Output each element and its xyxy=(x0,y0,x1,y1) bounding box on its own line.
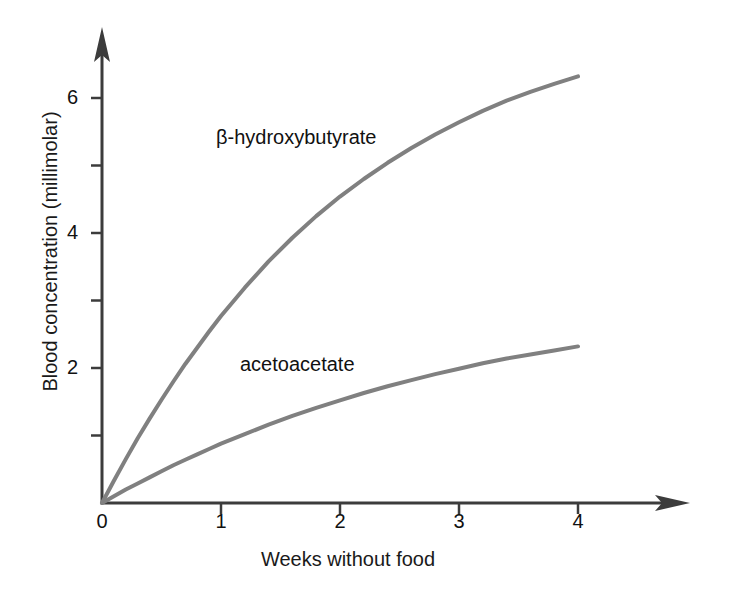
x-tick-label-3: 3 xyxy=(444,510,474,533)
x-axis-title-wrapper: Weeks without food xyxy=(198,548,498,571)
y-tick-label-2: 2 xyxy=(52,356,78,379)
x-tick-label-4: 4 xyxy=(563,510,593,533)
y-axis-ticks xyxy=(91,98,102,436)
x-tick-label-0: 0 xyxy=(87,510,117,533)
y-axis-title: Blood concentration (millimolar) xyxy=(39,111,61,391)
x-axis-ticks xyxy=(221,503,578,514)
x-axis-title: Weeks without food xyxy=(261,548,435,570)
x-tick-label-1: 1 xyxy=(206,510,236,533)
chart-figure: Blood concentration (millimolar) Weeks w… xyxy=(0,0,739,591)
y-tick-label-6: 6 xyxy=(52,86,78,109)
series-label-acetoacetate: acetoacetate xyxy=(240,353,355,376)
series-label-beta-hydroxybutyrate: β-hydroxybutyrate xyxy=(216,126,376,149)
y-tick-label-4: 4 xyxy=(52,221,78,244)
x-tick-label-2: 2 xyxy=(325,510,355,533)
chart-canvas xyxy=(0,0,739,591)
axes-group xyxy=(94,27,690,511)
